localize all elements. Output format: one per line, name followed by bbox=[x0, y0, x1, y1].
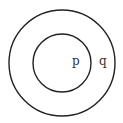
nested-circles-diagram: p q bbox=[0, 0, 123, 123]
inner-circle-p bbox=[33, 34, 91, 92]
label-p: p bbox=[72, 54, 80, 68]
label-q: q bbox=[99, 54, 107, 68]
diagram-canvas: p q bbox=[0, 0, 123, 123]
